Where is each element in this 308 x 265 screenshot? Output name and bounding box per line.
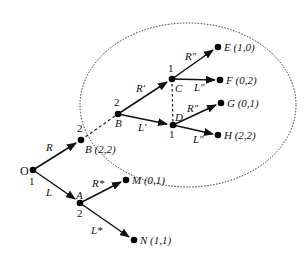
node-o	[30, 167, 37, 174]
dashed-link-b	[81, 114, 118, 140]
edge-label-r-dprime-c: R″	[184, 50, 197, 62]
label-d: D	[174, 111, 183, 123]
label-d-player: 1	[169, 128, 175, 140]
edge-label-r-star: R*	[91, 177, 105, 189]
label-b-outer-player: 2	[77, 122, 83, 134]
label-h: H (2,2)	[223, 129, 256, 142]
label-c-player: 1	[168, 62, 174, 74]
edge-label-l-prime: L′	[137, 121, 147, 133]
label-g: G (0,1)	[227, 97, 259, 110]
node-f	[217, 77, 224, 84]
edge-label-l-dprime-d: L″	[192, 133, 204, 145]
edge-o-b	[33, 143, 76, 170]
label-a: A	[75, 189, 83, 201]
edge-c-f	[172, 79, 215, 80]
node-e	[215, 44, 222, 51]
label-o: O	[20, 164, 29, 178]
edge-label-l: L	[45, 186, 52, 198]
game-tree-diagram: O 1 2 B (2,2) A 2 M (0,1) N (1,1) 2 B 1 …	[0, 0, 308, 265]
node-g	[218, 100, 225, 107]
edge-a-n	[80, 203, 129, 237]
label-e: E (1,0)	[223, 41, 255, 54]
edge-label-r: R	[45, 141, 53, 153]
label-n: N (1,1)	[139, 234, 172, 247]
label-f: F (0,2)	[225, 74, 257, 87]
label-a-player: 2	[77, 207, 83, 219]
label-b-inner-player: 2	[114, 96, 120, 108]
information-set-cd	[172, 79, 173, 125]
label-o-player: 1	[29, 175, 35, 187]
node-b-outer	[78, 137, 85, 144]
label-b-outer: B (2,2)	[85, 143, 116, 156]
edge-o-a	[33, 170, 75, 199]
label-c: C	[175, 82, 183, 94]
label-m: M (0,1)	[131, 174, 165, 187]
node-n	[131, 237, 138, 244]
label-b-inner: B	[115, 117, 122, 129]
edge-label-r-dprime-d: R″	[186, 102, 199, 114]
edge-label-l-star: L*	[90, 224, 103, 236]
edge-label-l-dprime-c: L″	[193, 81, 205, 93]
node-h	[215, 132, 222, 139]
edge-label-r-prime: R′	[135, 82, 146, 94]
node-m	[123, 177, 130, 184]
